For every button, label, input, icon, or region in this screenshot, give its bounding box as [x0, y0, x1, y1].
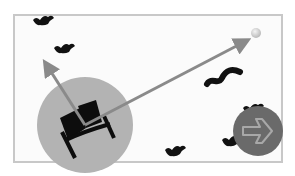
game-canvas[interactable] — [0, 0, 295, 176]
worm-icon — [207, 70, 240, 84]
bat-icon — [54, 44, 75, 54]
bat-icon — [165, 146, 186, 157]
next-button[interactable] — [233, 106, 283, 156]
launch-vector-arrow[interactable] — [85, 41, 246, 125]
target-ball — [251, 28, 261, 38]
bat-icon — [33, 16, 54, 26]
